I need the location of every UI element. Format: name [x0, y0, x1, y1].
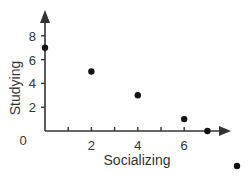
scatter-chart: 2462468 0 Socializing Studying — [0, 0, 250, 180]
data-point — [135, 92, 141, 98]
data-point — [181, 116, 187, 122]
x-tick-label: 2 — [88, 138, 95, 153]
axes — [40, 10, 231, 136]
y-tick-label: 8 — [29, 29, 36, 44]
y-axis-arrow-icon — [40, 10, 50, 23]
x-axis-label: Socializing — [104, 152, 171, 168]
data-point — [42, 45, 48, 51]
x-tick-label: 4 — [134, 138, 141, 153]
y-tick-label: 2 — [29, 100, 36, 115]
x-tick-label: 6 — [181, 138, 188, 153]
x-axis-arrow-icon — [219, 126, 231, 136]
y-tick-label: 6 — [29, 53, 36, 68]
origin-label: 0 — [19, 133, 26, 148]
y-axis-label: Studying — [7, 61, 23, 115]
ticks: 2462468 — [29, 29, 188, 153]
y-tick-label: 4 — [29, 76, 36, 91]
data-point — [234, 163, 240, 169]
data-point — [204, 128, 210, 134]
data-point — [88, 68, 94, 74]
